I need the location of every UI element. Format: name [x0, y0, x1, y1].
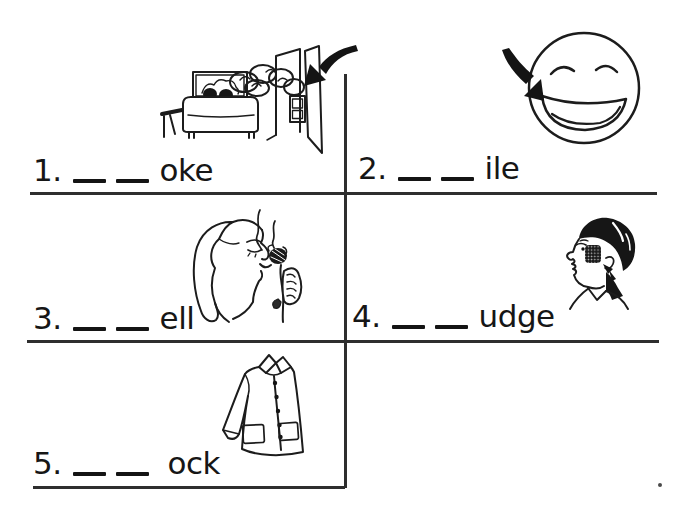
exercise-1-caption: 1.oke	[33, 155, 213, 186]
exercise-5-caption: 5.ock	[33, 448, 220, 479]
divider-row2-row3	[27, 340, 659, 343]
open-door	[305, 46, 322, 153]
exercise-1-suffix: oke	[160, 152, 213, 188]
answer-blank	[73, 179, 106, 183]
left-eye	[551, 67, 574, 74]
answer-blank	[398, 177, 431, 181]
woman-face	[215, 230, 271, 322]
collar-shoulders	[570, 272, 628, 309]
answer-blank	[435, 325, 468, 329]
smoke-clouds	[230, 65, 304, 96]
divider-bottom	[33, 486, 345, 489]
smoke-through-door-illustration	[148, 36, 360, 162]
smiling-mouth	[542, 96, 626, 130]
exercise-5-suffix: ock	[168, 445, 220, 481]
smock-jacket-illustration	[212, 350, 317, 462]
answer-blank	[441, 177, 474, 181]
answer-blank	[116, 179, 149, 183]
exercise-2-suffix: ile	[485, 150, 520, 186]
answer-blank	[116, 327, 149, 331]
stove	[290, 96, 305, 122]
hair	[579, 218, 635, 271]
sofa	[183, 97, 258, 138]
answer-blank	[73, 327, 106, 331]
exercise-3-caption: 3.ell	[33, 303, 194, 334]
exercise-2-number: 2.	[358, 150, 387, 186]
exercise-4-caption: 4.udge	[352, 301, 555, 332]
smiling-face-illustration	[478, 22, 653, 157]
hair	[194, 220, 262, 321]
exercise-3-suffix: ell	[160, 300, 195, 336]
stray-scan-mark	[658, 483, 662, 487]
smudge-patch	[585, 245, 601, 263]
exercise-1-number: 1.	[33, 152, 62, 188]
exercise-2-caption: 2.ile	[358, 153, 519, 184]
answer-blank	[73, 472, 106, 476]
exercise-5-number: 5.	[33, 445, 62, 481]
answer-blank	[392, 325, 425, 329]
exercise-4-suffix: udge	[479, 298, 555, 334]
exercise-4-number: 4.	[352, 298, 381, 334]
woman-smelling-flower-illustration	[183, 205, 308, 340]
exercise-3-number: 3.	[33, 300, 62, 336]
hand	[283, 268, 302, 304]
answer-blank	[116, 472, 149, 476]
jacket-body	[223, 360, 303, 455]
right-eye	[596, 66, 617, 72]
man-with-smudge-illustration	[560, 212, 645, 312]
worksheet-page: 1.oke 2.ile 3.ell 4.udge 5.ock	[0, 0, 685, 505]
